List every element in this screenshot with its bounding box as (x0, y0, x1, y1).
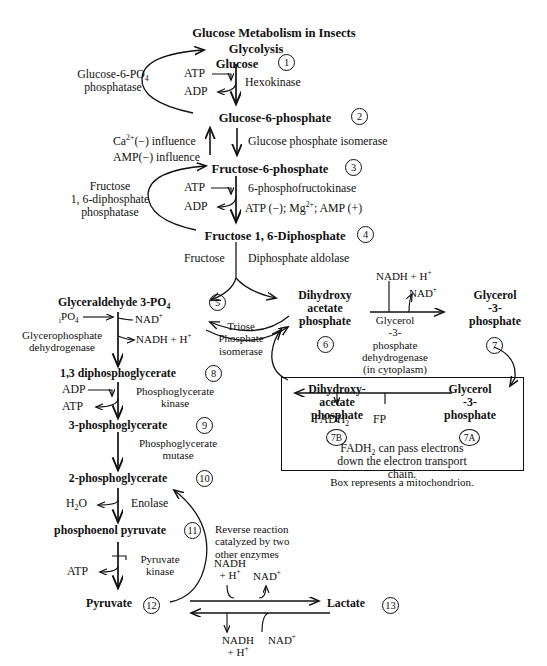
nadh-rev-line2: + H+ (228, 646, 249, 658)
nadh-fwd-line2: + H+ (220, 569, 241, 581)
pgm-line2: mutase (162, 449, 193, 461)
figure-title: Glucose Metabolism in Insects (192, 26, 355, 40)
fdpase-line2: 1, 6-diphosphate (71, 192, 150, 206)
step-number-5: 5 (209, 294, 226, 311)
pathway-diagram-canvas: Glucose Metabolism in Insects Glycolysis… (0, 0, 547, 666)
step-number-11: 11 (184, 522, 201, 539)
metabolite-3-phosphoglycerate: 3-phosphoglycerate (69, 419, 167, 432)
step-number-13: 13 (382, 597, 399, 614)
g3p-line2: -3- (488, 301, 502, 315)
metabolite-phosphoenolpyruvate: phosphoenol pyruvate (54, 524, 166, 537)
cofactor-nadh-reverse: NADH + H+ (222, 634, 254, 659)
gpdh-line1: Glycerophosphate (22, 329, 102, 341)
cofactor-adp-1: ADP (184, 85, 208, 98)
metabolite-glycerol-3-phosphate: Glycerol -3- phosphate (469, 289, 521, 329)
tpi-line3: isomerase (219, 345, 263, 357)
enzyme-phosphofructokinase: 6-phosphofructokinase (248, 182, 356, 195)
nadh-rev-line1: NADH (222, 634, 254, 646)
mito-g3p-line3: phosphate (444, 408, 496, 422)
enzyme-hexokinase: Hexokinase (245, 76, 301, 89)
dhap-line2: acetate (307, 301, 342, 315)
pgk-line1: Phosphoglycerate (136, 385, 214, 397)
substrate-fructose: Fructose (184, 252, 225, 265)
enzyme-diphosphate-aldolase: Diphosphate aldolase (248, 252, 349, 265)
reverse-line1: Reverse reaction (215, 523, 289, 535)
mitochondrion-caption: Box represents a mitochondrion. (330, 476, 474, 488)
mito-note-line1: FADH2 can pass electrons (340, 441, 463, 455)
enzyme-phosphoglycerate-mutase: Phosphoglycerate mutase (139, 437, 217, 462)
step-number-4: 4 (357, 226, 374, 243)
pgm-line1: Phosphoglycerate (139, 437, 217, 449)
step-number-7: 7 (486, 337, 503, 354)
enzyme-glycerol-3-phosphate-dehydrogenase: Glycerol -3- phosphate dehydrogenase (in… (362, 314, 428, 376)
cofactor-nad-plus-1: NAD+ (135, 313, 163, 325)
cofactor-nadh-h-1: NADH + H+ (136, 333, 192, 345)
dhap-line3: phosphate (299, 314, 351, 328)
dhap-line1: Dihydroxy (298, 288, 352, 302)
g3p-line3: phosphate (469, 314, 521, 328)
product-water: H2O (66, 497, 87, 510)
metabolite-fructose-1-6-diphosphate: Fructose 1, 6-Diphosphate (205, 229, 346, 243)
cofactor-fadh2: FADH2 (314, 413, 349, 426)
g3pdh-line3: phosphate (373, 339, 418, 351)
step-number-8: 8 (205, 365, 222, 382)
reverse-line2: catalyzed by two (215, 535, 290, 547)
gpdh-line2: dehydrogenase (29, 341, 95, 353)
enzyme-g6pase-line1: Glucose-6-PO4 (77, 67, 148, 81)
fdpase-line3: phosphatase (81, 205, 139, 219)
pgk-line2: kinase (161, 397, 189, 409)
cofactor-atp-3: ATP (62, 400, 83, 413)
step-number-9: 9 (196, 417, 213, 434)
regulator-amp-influence: AMP(−) influence (113, 151, 200, 164)
step-number-6: 6 (317, 336, 334, 353)
cofactor-adp-3: ADP (62, 383, 86, 396)
cofactor-inorganic-phosphate: iPO4 (59, 310, 79, 322)
cofactor-atp-4: ATP (67, 565, 88, 578)
enzyme-glycerophosphate-dehydrogenase: Glycerophosphate dehydrogenase (22, 329, 102, 354)
metabolite-dihydroxyacetate-phosphate: Dihydroxy acetate phosphate (298, 289, 352, 329)
cofactor-nadh-h-top: NADH + H+ (376, 270, 432, 282)
enzyme-g6pase-line2: phosphatase (84, 80, 142, 94)
step-number-10: 10 (196, 470, 213, 487)
enzyme-pyruvate-kinase: Pyruvate kinase (140, 553, 179, 578)
cofactor-adp-2: ADP (184, 200, 208, 213)
mito-dhap-line1: Dihydroxy- (308, 382, 365, 396)
step-number-12: 12 (143, 597, 160, 614)
g3pdh-line5: (in cytoplasm) (363, 363, 427, 375)
tpi-line1: Triose (227, 320, 255, 332)
mito-metabolite-glycerol-3-phosphate: Glycerol -3- phosphate (444, 383, 496, 423)
metabolite-glyceraldehyde-3-phosphate: Glyceraldehyde 3-PO4 (58, 296, 170, 309)
enzyme-glucose-6-phosphatase: Glucose-6-PO4 phosphatase (77, 68, 148, 94)
metabolite-lactate: Lactate (327, 597, 365, 610)
g3pdh-line1: Glycerol (376, 314, 414, 326)
enzyme-triose-phosphate-isomerase: Triose Phosphate isomerase (218, 320, 263, 357)
subtitle-glycolysis: Glycolysis (229, 42, 284, 56)
metabolite-2-phosphoglycerate: 2-phosphoglycerate (69, 472, 167, 485)
cofactor-atp-2: ATP (184, 181, 205, 194)
pk-line2: kinase (146, 565, 174, 577)
fdpase-line1: Fructose (90, 179, 131, 193)
mito-dhap-line2: acetate (319, 395, 354, 409)
cofactor-fp: FP (373, 413, 386, 426)
tpi-line2: Phosphate (218, 332, 263, 344)
step-number-3: 3 (345, 159, 362, 176)
metabolite-1-3-diphosphoglycerate: 1,3 diphosphoglycerate (60, 367, 176, 380)
step-number-1: 1 (278, 54, 295, 71)
enzyme-phosphoglycerate-kinase: Phosphoglycerate kinase (136, 385, 214, 410)
cofactor-nad-plus-top: NAD+ (409, 287, 437, 299)
g3p-line1: Glycerol (473, 288, 516, 302)
g3pdh-line4: dehydrogenase (362, 351, 428, 363)
enzyme-enolase: Enolase (131, 497, 168, 510)
cofactor-nad-forward: NAD+ (253, 570, 281, 582)
g3pdh-line2: -3- (389, 326, 402, 338)
metabolite-fructose-6-phosphate: Fructose-6-phosphate (212, 162, 329, 176)
metabolite-glucose-6-phosphate: Glucose-6-phosphate (219, 111, 332, 125)
mito-g3p-line1: Glycerol (448, 382, 491, 396)
regulator-calcium-influence: Ca2+(−) influence (113, 135, 196, 148)
mito-g3p-line2: -3- (463, 395, 477, 409)
cofactor-atp-1: ATP (184, 67, 205, 80)
note-reverse-reaction: Reverse reaction catalyzed by two other … (215, 523, 290, 560)
nadh-fwd-line1: NADH (214, 557, 246, 569)
step-number-2: 2 (351, 108, 368, 125)
regulator-pfk: ATP (−); Mg2+; AMP (+) (245, 202, 362, 215)
